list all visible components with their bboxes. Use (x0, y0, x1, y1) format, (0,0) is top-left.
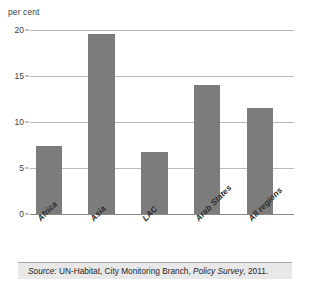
bar-asia (88, 34, 115, 214)
bar-lac (141, 152, 168, 214)
chart-figure: per cent 05101520 AfricaAsiaLACArab Stat… (0, 0, 310, 282)
y-axis-unit-label: per cent (8, 7, 40, 17)
y-tick-label-15: 15 (15, 71, 24, 81)
x-axis-category-labels: AfricaAsiaLACArab StatesAll regions (30, 216, 294, 260)
y-tick-mark-5 (25, 167, 29, 168)
source-band: Source: UN-Habitat, City Monitoring Bran… (18, 262, 292, 279)
source-body-before: UN-Habitat, City Monitoring Branch, (57, 266, 194, 276)
y-tick-label-20: 20 (15, 25, 24, 35)
source-lead: Source: (28, 266, 57, 276)
source-publication: Policy Survey (193, 266, 243, 276)
y-tick-mark-10 (25, 121, 29, 122)
plot-area: 05101520 (30, 30, 294, 215)
y-tick-label-5: 5 (19, 163, 24, 173)
y-tick-mark-15 (25, 75, 29, 76)
y-tick-mark-0 (25, 214, 29, 215)
source-body-after: , 2011. (243, 266, 268, 276)
y-tick-label-0: 0 (19, 209, 24, 219)
source-note: Source: UN-Habitat, City Monitoring Bran… (28, 266, 268, 276)
y-tick-label-10: 10 (15, 117, 24, 127)
bar-series (30, 30, 294, 215)
y-tick-mark-20 (25, 29, 29, 30)
